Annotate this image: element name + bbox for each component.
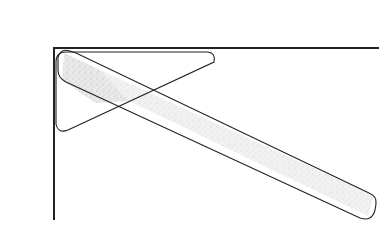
- region-a-shading: [100, 70, 374, 216]
- event-regions-overlay: [0, 0, 379, 230]
